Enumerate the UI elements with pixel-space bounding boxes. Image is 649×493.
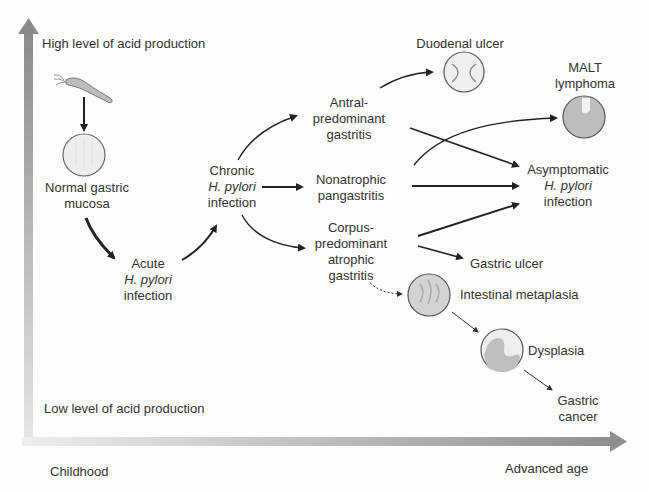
- arrow-nonatrophic-to-malt: [414, 118, 556, 165]
- normal-mucosa-icon: [63, 134, 105, 176]
- arrow-corpus-to-gastric-ulcer: [418, 246, 462, 258]
- y-axis-bottom-label: Low level of acid production: [44, 401, 204, 417]
- node-duodenal-ulcer: Duodenal ulcer: [410, 36, 510, 52]
- node-corpus-atrophic-gastritis: Corpus- predominant atrophic gastritis: [306, 220, 396, 284]
- dysplasia-icon: [481, 329, 523, 372]
- arrow-chronic-to-antral: [238, 116, 296, 160]
- arrow-chronic-to-corpus: [242, 215, 304, 248]
- node-gastric-ulcer: Gastric ulcer: [470, 256, 543, 272]
- node-antral-gastritis: Antral- predominant gastritis: [304, 95, 394, 143]
- malt-lymphoma-icon: [563, 96, 605, 138]
- arrow-antral-to-asymptomatic: [410, 128, 518, 166]
- arrow-dysplasia-to-cancer: [524, 370, 552, 390]
- x-axis-arrow: [22, 431, 627, 452]
- arrow-corpus-to-asymptomatic: [418, 204, 518, 236]
- node-intestinal-metaplasia: Intestinal metaplasia: [460, 287, 579, 303]
- x-axis-right-label: Advanced age: [505, 461, 588, 477]
- intestinal-metaplasia-icon: [408, 274, 450, 316]
- node-dysplasia: Dysplasia: [528, 343, 584, 359]
- node-gastric-cancer: Gastric cancer: [548, 393, 608, 425]
- node-acute-infection: Acute H. pylori infection: [116, 256, 180, 304]
- node-malt-lymphoma: MALT lymphoma: [550, 60, 620, 92]
- arrow-antral-to-duodenal: [380, 72, 432, 88]
- arrow-metaplasia-to-dysplasia: [452, 312, 478, 332]
- duodenal-ulcer-icon: [444, 52, 484, 92]
- node-asymptomatic-infection: Asymptomatic H. pylori infection: [520, 162, 616, 210]
- node-normal-gastric-mucosa: Normal gastric mucosa: [42, 180, 132, 212]
- y-axis-top-label: High level of acid production: [42, 36, 205, 52]
- arrow-acute-to-chronic: [182, 226, 216, 260]
- x-axis-left-label: Childhood: [50, 464, 109, 480]
- arrow-corpus-to-metaplasia: [370, 283, 402, 294]
- arrow-normal-to-acute: [86, 218, 114, 258]
- node-nonatrophic-pangastritis: Nonatrophic pangastritis: [306, 172, 396, 204]
- y-axis-arrow: [18, 18, 39, 442]
- node-chronic-infection: Chronic H. pylori infection: [200, 163, 264, 211]
